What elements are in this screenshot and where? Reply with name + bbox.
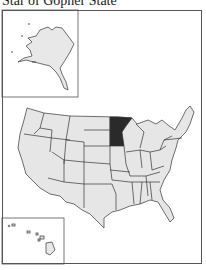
contiguous-states [18,106,194,228]
us-map [0,0,206,270]
state-hawaii [8,224,55,255]
us-outline [18,106,194,228]
state-alaska [18,27,74,90]
hawaii-inset-frame [2,218,64,264]
